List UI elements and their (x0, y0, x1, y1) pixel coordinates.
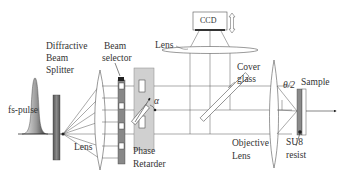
label-objective-lens: Lens (232, 151, 250, 161)
beam-selector-pointer (115, 63, 120, 76)
label-splitter: Splitter (46, 65, 74, 75)
phase-retarder (131, 68, 155, 150)
label-diffractive: Diffractive (46, 41, 88, 51)
label-alpha: α (154, 96, 159, 106)
su8-resist (297, 89, 302, 135)
label-ccd: CCD (200, 16, 216, 26)
objective-lens (270, 60, 279, 168)
label-sample: Sample (301, 77, 330, 87)
label-beam: Beam (46, 53, 68, 63)
label-glass: glass (237, 74, 256, 84)
tube-lens (162, 47, 258, 54)
label-beam-selector-2: selector (102, 53, 132, 63)
label-objective: Objective (232, 138, 269, 148)
label-lens-top: Lens (155, 40, 173, 50)
label-cover: Cover (237, 62, 260, 72)
first-lens (95, 70, 106, 170)
label-su8: SU8 (286, 137, 303, 147)
diffractive-beam-splitter (53, 95, 60, 160)
label-phase: Phase (133, 146, 155, 156)
label-fs-pulse: fs-pulse (8, 105, 38, 115)
ccd-translation-arrow-icon (229, 13, 235, 33)
label-beam-selector-1: Beam (104, 41, 126, 51)
label-theta: θ/2 (283, 80, 295, 90)
sample-substrate (302, 89, 306, 135)
label-resist: resist (286, 150, 306, 160)
beam-selector (118, 77, 125, 164)
label-lens-bottom: Lens (74, 142, 92, 152)
label-retarder: Retarder (133, 159, 166, 169)
